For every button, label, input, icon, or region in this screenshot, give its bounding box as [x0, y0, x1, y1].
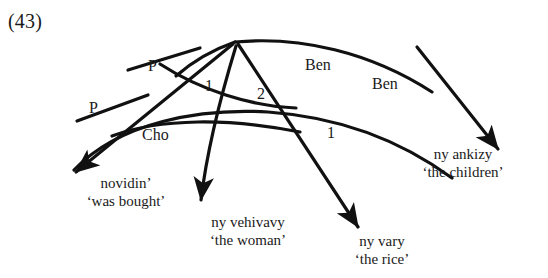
- terminal-meaning: ‘the woman’: [188, 232, 308, 250]
- terminal-meaning: ‘was bought’: [68, 193, 184, 211]
- terminal-ny-vehivavy: ny vehivavy ‘the woman’: [188, 214, 308, 249]
- terminal-form: ny ankizy: [393, 146, 533, 164]
- tick-p-outer: [77, 95, 148, 121]
- terminal-meaning: ‘the children’: [393, 164, 533, 182]
- terminal-form: ny vary: [332, 233, 432, 251]
- terminal-form: novidin’: [68, 175, 184, 193]
- arc-label-one-lower: 1: [327, 125, 335, 141]
- figure-root: (43): [0, 0, 548, 278]
- terminal-form: ny vehivavy: [188, 214, 308, 232]
- arc-label-cho: Cho: [142, 127, 169, 143]
- terminal-meaning: ‘the rice’: [332, 251, 432, 269]
- terminal-novidin: novidin’ ‘was bought’: [68, 175, 184, 210]
- stroke-to-ny-vary: [238, 44, 358, 227]
- arc-label-p-inner: P: [148, 58, 157, 74]
- arc-label-two: 2: [257, 86, 265, 102]
- terminal-ny-vary: ny vary ‘the rice’: [332, 233, 432, 268]
- arc-label-p-outer: P: [89, 100, 98, 116]
- arc-apex-left: [176, 42, 235, 76]
- arc-label-ben-upper: Ben: [305, 57, 331, 73]
- arc-label-ben-lower: Ben: [372, 76, 398, 92]
- arc-lower-inner: [112, 122, 300, 136]
- arc-label-one-upper: 1: [205, 78, 213, 94]
- stroke-to-ny-ankizy: [417, 47, 498, 149]
- terminal-ny-ankizy: ny ankizy ‘the children’: [393, 146, 533, 181]
